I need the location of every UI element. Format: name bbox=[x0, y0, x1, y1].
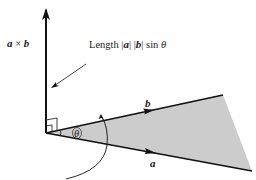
vector-a-label: a bbox=[150, 157, 156, 169]
cross-product-diagram: a × b Length |a| |b| sin θ b a θ bbox=[0, 0, 256, 180]
length-leader-line bbox=[54, 64, 86, 86]
right-angle-marker bbox=[46, 118, 57, 130]
length-leader-arrowhead-icon bbox=[51, 82, 59, 88]
angle-theta-label: θ bbox=[74, 128, 79, 139]
rotation-arrowhead-icon bbox=[99, 114, 105, 121]
length-label: Length |a| |b| sin θ bbox=[89, 38, 166, 50]
cross-product-label: a × b bbox=[7, 37, 30, 49]
vector-b-label: b bbox=[145, 97, 151, 109]
